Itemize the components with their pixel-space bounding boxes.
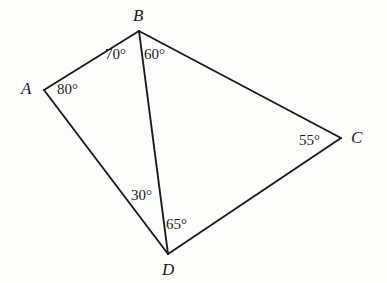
- segment-BC: [139, 31, 341, 138]
- geometry-figure: A B C D 80° 70° 60° 55° 30° 65°: [0, 0, 387, 283]
- segment-CD: [168, 138, 341, 254]
- vertex-label-b: B: [133, 7, 143, 24]
- vertex-label-a: A: [21, 80, 31, 97]
- angle-label-adb: 30°: [131, 188, 152, 203]
- vertex-label-c: C: [351, 129, 362, 146]
- angle-label-abd: 70°: [105, 47, 126, 62]
- angle-label-bdc: 65°: [166, 217, 187, 232]
- angle-label-a: 80°: [57, 82, 78, 97]
- angle-label-dbc: 60°: [144, 47, 165, 62]
- angle-label-c: 55°: [299, 133, 320, 148]
- vertex-label-d: D: [162, 261, 174, 278]
- figure-canvas: [0, 0, 387, 283]
